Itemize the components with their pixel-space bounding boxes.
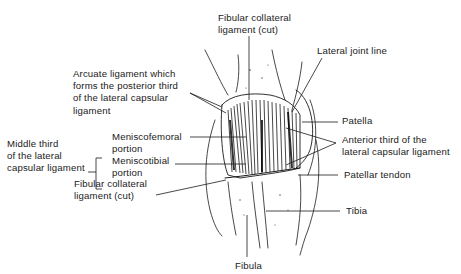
label-line: Middle third — [7, 138, 85, 150]
label-line: capsular ligament — [7, 162, 85, 174]
label-anterior-third: Anterior third of the lateral capsular l… — [342, 134, 450, 158]
label-fibular-collateral-ligament-top: Fibular collateral ligament (cut) — [218, 12, 291, 36]
label-line: Meniscotibial — [112, 155, 169, 167]
label-line: ligament — [73, 105, 178, 117]
label-fibular-collateral-ligament-bottom: Fibular collateral ligament (cut) — [74, 178, 147, 202]
label-middle-third: Middle third of the lateral capsular lig… — [7, 138, 85, 175]
label-tibia: Tibia — [346, 205, 367, 217]
label-line: of the lateral capsular — [73, 92, 178, 104]
label-line: Fibular collateral — [218, 12, 291, 24]
label-line: Arcuate ligament which — [73, 68, 178, 80]
label-line: forms the posterior third — [73, 80, 178, 92]
label-line: Meniscofemoral — [112, 131, 182, 143]
label-patella: Patella — [342, 115, 372, 127]
label-lateral-joint-line: Lateral joint line — [317, 45, 387, 57]
label-arcuate-ligament: Arcuate ligament which forms the posteri… — [73, 68, 178, 117]
label-line: ligament (cut) — [218, 24, 291, 36]
label-line: portion — [112, 143, 182, 155]
label-line: Fibular collateral — [74, 178, 147, 190]
label-patellar-tendon: Patellar tendon — [344, 169, 411, 181]
label-meniscofemoral-portion: Meniscofemoral portion — [112, 131, 182, 155]
label-fibula: Fibula — [235, 260, 262, 272]
label-line: ligament (cut) — [74, 190, 147, 202]
label-line: Anterior third of the — [342, 134, 450, 146]
knee-ligament-diagram: Fibular collateral ligament (cut) Latera… — [0, 0, 461, 274]
label-line: lateral capsular ligament — [342, 146, 450, 158]
label-line: of the lateral — [7, 150, 85, 162]
label-meniscotibial-portion: Meniscotibial portion — [112, 155, 169, 179]
